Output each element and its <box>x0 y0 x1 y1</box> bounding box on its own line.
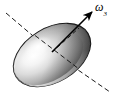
figure-canvas: ω3 <box>0 0 115 99</box>
shaded-ellipsoid <box>0 10 101 99</box>
omega-subscript: 3 <box>103 10 107 18</box>
omega-axis-label: ω3 <box>95 1 107 16</box>
